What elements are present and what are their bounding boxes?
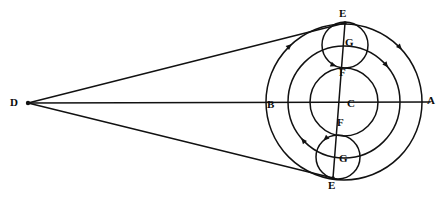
label-E-top: E: [339, 8, 346, 19]
label-C: C: [347, 98, 355, 109]
geometric-figure: [0, 0, 444, 199]
vertex-D: [26, 101, 30, 105]
label-G-bottom: G: [339, 153, 348, 164]
line-D-to-E-top: [28, 23, 345, 103]
label-F-top: F: [339, 67, 346, 78]
label-G-top: G: [345, 37, 354, 48]
vertex-E-top: [343, 21, 347, 25]
label-B: B: [267, 99, 274, 110]
lines-group: [28, 23, 430, 178]
diagram-canvas: DBCAEGFFGE: [0, 0, 444, 199]
arrow-marks-group: [286, 44, 402, 145]
label-D: D: [10, 97, 18, 108]
arrow-epicycle-bottom: [323, 135, 329, 141]
points-group: [26, 21, 347, 180]
label-F-bottom: F: [337, 117, 344, 128]
label-A: A: [427, 95, 435, 106]
line-D-to-A-axis: [28, 102, 430, 103]
label-E-bottom: E: [328, 180, 335, 191]
line-D-to-E-bottom: [28, 103, 333, 178]
